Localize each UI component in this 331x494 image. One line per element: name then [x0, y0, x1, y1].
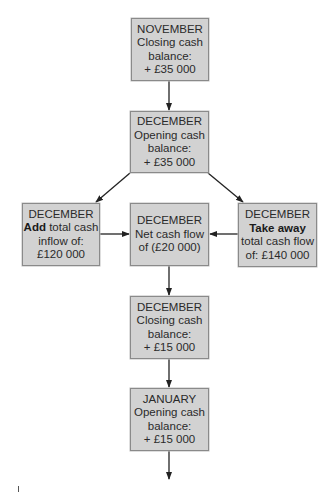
node-label-emphasis: Add — [24, 221, 46, 233]
node-month: DECEMBER — [245, 208, 310, 222]
node-december-cash-inflow: DECEMBER Add total cash inflow of: £120 … — [22, 203, 100, 266]
node-month: DECEMBER — [28, 208, 93, 222]
node-label: Closing cash — [137, 36, 203, 50]
node-value: + £35 000 — [144, 63, 195, 77]
node-label: Add total cash — [24, 221, 99, 235]
node-month: DECEMBER — [137, 214, 202, 228]
node-value: of (£20 000) — [138, 241, 200, 255]
node-label-rest: total cash — [46, 221, 98, 233]
node-month: DECEMBER — [137, 115, 202, 129]
node-label: Take away — [249, 222, 306, 236]
node-label: balance: — [148, 142, 191, 156]
node-label: balance: — [148, 420, 191, 434]
node-value: of: £140 000 — [246, 249, 310, 263]
node-december-closing-balance: DECEMBER Closing cash balance: + £15 000 — [130, 296, 209, 359]
arrow-dec-opening-to-outflow — [208, 173, 243, 202]
node-label-emphasis: Take away — [249, 222, 306, 234]
arrow-dec-opening-to-inflow — [96, 173, 130, 202]
node-label: balance: — [148, 328, 191, 342]
scan-artifact-mark — [18, 486, 19, 492]
node-month: NOVEMBER — [137, 23, 203, 37]
node-label: Closing cash — [137, 314, 203, 328]
node-value: £120 000 — [37, 248, 85, 262]
node-december-net-cash-flow: DECEMBER Net cash flow of (£20 000) — [130, 203, 209, 266]
node-label: Net cash flow — [135, 228, 204, 242]
node-november-closing-balance: NOVEMBER Closing cash balance: + £35 000 — [131, 18, 209, 81]
node-value: + £35 000 — [144, 156, 195, 170]
node-label: inflow of: — [38, 235, 83, 249]
node-january-opening-balance: JANUARY Opening cash balance: + £15 000 — [130, 388, 209, 451]
node-value: + £15 000 — [144, 341, 195, 355]
node-label: balance: — [148, 50, 191, 64]
node-label: Opening cash — [134, 406, 205, 420]
node-label: total cash flow — [241, 235, 314, 249]
node-value: + £15 000 — [144, 433, 195, 447]
node-month: DECEMBER — [137, 301, 202, 315]
node-december-cash-outflow: DECEMBER Take away total cash flow of: £… — [238, 203, 317, 267]
node-december-opening-balance: DECEMBER Opening cash balance: + £35 000 — [130, 111, 209, 173]
node-month: JANUARY — [143, 393, 196, 407]
node-label: Opening cash — [134, 129, 205, 143]
